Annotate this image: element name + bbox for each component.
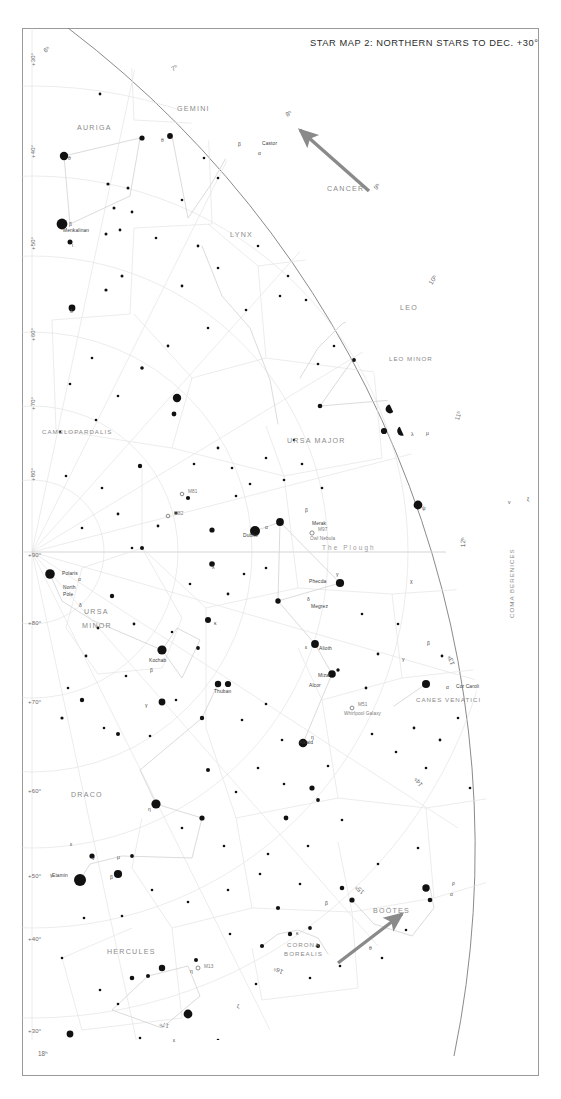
direction-arrows — [300, 130, 402, 963]
bootes-direction-arrow — [338, 914, 402, 963]
m13-marker — [196, 966, 200, 970]
star-chart: +30°+40°+50°+60°+70°+80°+90°+80°+70°+60°… — [22, 28, 539, 1076]
star-map-page: STAR MAP 2: NORTHERN STARS TO DEC. +30° — [0, 0, 561, 1099]
constellation-boundaries — [52, 28, 502, 1030]
cancer-direction-arrow — [300, 130, 369, 191]
m97-marker — [310, 531, 314, 535]
dso-markers — [166, 492, 354, 970]
constellation-figures — [50, 136, 434, 1028]
m51-marker — [350, 706, 354, 710]
m81-marker — [180, 492, 184, 496]
declination-limit-arc — [68, 28, 475, 1056]
coordinate-grid — [22, 28, 522, 1076]
sky-chart-svg — [22, 28, 539, 1076]
m82-marker — [166, 514, 170, 518]
